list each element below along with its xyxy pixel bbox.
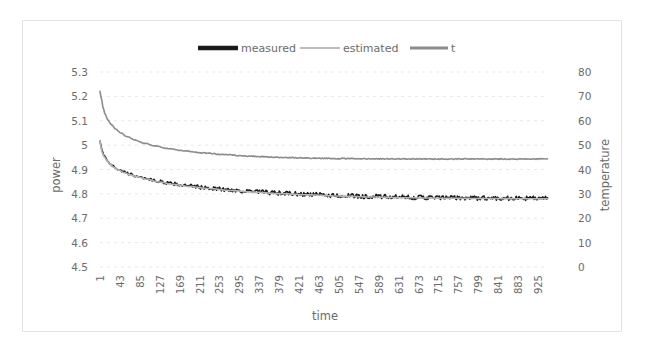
x-tick-label: 883 (513, 275, 524, 294)
x-tick-label: 631 (394, 275, 405, 294)
x-tick-label: 1 (95, 275, 106, 281)
y-tick-label: 4.5 (71, 261, 88, 273)
legend-item-measured[interactable]: measured (198, 42, 296, 55)
x-tick-label: 757 (453, 275, 464, 294)
y2-tick-label: 80 (578, 66, 591, 78)
chart-figure: 5.35.25.154.94.84.74.64.5 80706050403020… (0, 0, 649, 353)
y2-axis-tick-labels: 80706050403020100 (578, 66, 591, 273)
y2-tick-label: 50 (578, 139, 591, 151)
y-tick-label: 4.8 (71, 188, 88, 200)
chart-legend: measuredestimatedt (198, 42, 456, 55)
y2-tick-label: 0 (578, 261, 585, 273)
legend-item-estimated[interactable]: estimated (300, 42, 398, 55)
gridlines (100, 72, 548, 267)
y-axis-tick-labels: 5.35.25.154.94.84.74.64.5 (71, 66, 88, 273)
legend-label-measured: measured (241, 42, 296, 55)
x-tick-label: 211 (195, 275, 206, 294)
legend-label-t: t (451, 42, 456, 55)
y2-tick-label: 30 (578, 188, 591, 200)
series-line-estimated (100, 141, 548, 198)
y-tick-label: 4.6 (71, 237, 88, 249)
x-tick-label: 295 (234, 275, 245, 294)
x-tick-label: 673 (414, 275, 425, 294)
x-tick-label: 421 (294, 275, 305, 294)
legend-item-t[interactable]: t (410, 42, 456, 55)
y2-tick-label: 10 (578, 237, 591, 249)
y-tick-label: 4.7 (71, 212, 88, 224)
series-line-t (100, 91, 548, 159)
x-tick-label: 169 (175, 275, 186, 294)
x-tick-label: 379 (274, 275, 285, 294)
x-axis-tick-labels: 1438512716921125329533737942146350554758… (95, 275, 544, 294)
y2-tick-label: 60 (578, 115, 591, 127)
y2-tick-label: 70 (578, 90, 591, 102)
chart-plot-area: 5.35.25.154.94.84.74.64.5 80706050403020… (0, 0, 649, 353)
x-tick-label: 715 (433, 275, 444, 294)
x-tick-label: 505 (334, 275, 345, 294)
x-tick-label: 589 (374, 275, 385, 294)
legend-label-estimated: estimated (343, 42, 398, 55)
x-tick-label: 799 (473, 275, 484, 294)
y-tick-label: 4.9 (71, 164, 88, 176)
x-tick-label: 841 (493, 275, 504, 294)
y-tick-label: 5 (81, 139, 88, 151)
y-axis-title: power (49, 157, 63, 193)
y2-tick-label: 40 (578, 164, 591, 176)
x-tick-label: 43 (115, 275, 126, 288)
x-tick-label: 547 (354, 275, 365, 294)
y2-tick-label: 20 (578, 212, 591, 224)
x-tick-label: 85 (135, 275, 146, 288)
x-tick-label: 925 (533, 275, 544, 294)
y-tick-label: 5.1 (71, 115, 88, 127)
y2-axis-title: temperature (598, 139, 612, 211)
data-series-group (100, 91, 548, 200)
series-line-measured (100, 141, 548, 200)
x-tick-label: 127 (155, 275, 166, 294)
x-tick-label: 463 (314, 275, 325, 294)
y-tick-label: 5.3 (71, 66, 88, 78)
x-tick-label: 253 (214, 275, 225, 294)
x-tick-label: 337 (254, 275, 265, 294)
y-tick-label: 5.2 (71, 90, 88, 102)
x-axis-title: time (312, 309, 338, 323)
